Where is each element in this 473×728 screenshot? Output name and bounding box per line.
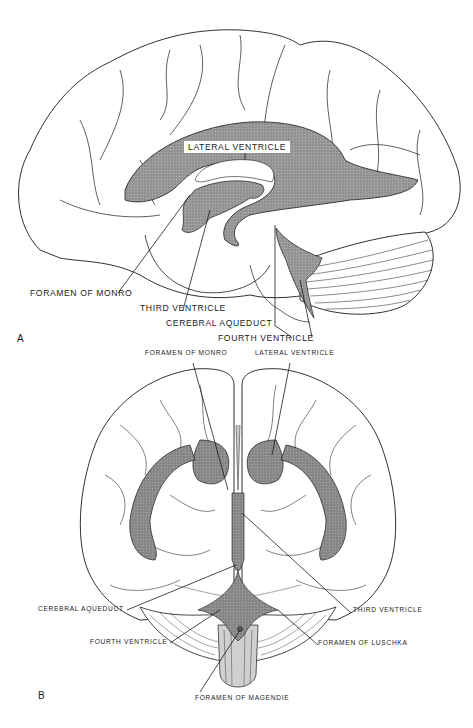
label-fourth-ventricle: FOURTH VENTRICLE [218, 333, 314, 343]
label-b-foramen-of-monro: FORAMEN OF MONRO [145, 349, 227, 356]
label-b-lateral-ventricle: LATERAL VENTRICLE [255, 349, 334, 356]
figure-panel-b: FORAMEN OF MONRO LATERAL VENTRICLE CEREB… [0, 345, 473, 728]
label-lateral-ventricle: LATERAL VENTRICLE [184, 141, 290, 153]
label-b-foramen-of-luschka: FORAMEN OF LUSCHKA [318, 639, 408, 646]
label-b-foramen-of-magendie: FORAMEN OF MAGENDIE [195, 694, 289, 701]
label-third-ventricle: THIRD VENTRICLE [140, 303, 226, 313]
figure-panel-a: LATERAL VENTRICLE FORAMEN OF MONRO THIRD… [0, 0, 473, 345]
anterior-brain-illustration [0, 345, 473, 728]
label-foramen-of-monro: FORAMEN OF MONRO [30, 288, 132, 298]
label-b-cerebral-aqueduct: CEREBRAL AQUEDUCT [38, 605, 124, 612]
panel-letter-b: B [38, 690, 45, 701]
label-b-third-ventricle: THIRD VENTRICLE [353, 606, 422, 613]
panel-letter-a: A [17, 333, 24, 344]
label-cerebral-aqueduct: CEREBRAL AQUEDUCT [166, 318, 272, 328]
label-b-fourth-ventricle: FOURTH VENTRICLE [90, 638, 167, 645]
